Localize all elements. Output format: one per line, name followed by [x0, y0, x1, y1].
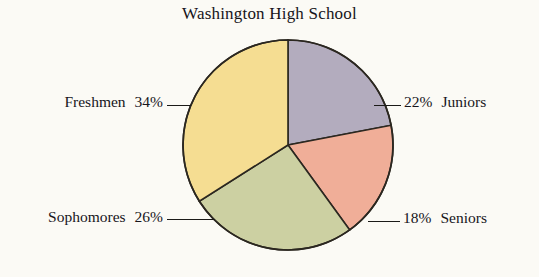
- leader-line-seniors: [368, 221, 400, 222]
- slice-label-seniors-percent: 18%: [403, 209, 431, 227]
- slice-label-sophomores: Sophomores 26%: [0, 208, 163, 226]
- slice-label-sophomores-name: Sophomores: [48, 208, 126, 226]
- leader-line-juniors: [374, 105, 401, 106]
- slice-label-sophomores-percent: 26%: [135, 208, 163, 226]
- pie-svg: [0, 0, 539, 277]
- pie-chart-figure: Washington High School Freshmen 34% Soph…: [0, 0, 539, 277]
- leader-line-freshmen: [167, 105, 191, 106]
- slice-label-seniors: 18% Seniors: [403, 209, 487, 227]
- slice-label-freshmen: Freshmen 34%: [18, 93, 163, 111]
- slice-label-freshmen-percent: 34%: [135, 93, 163, 111]
- leader-line-sophomores: [167, 219, 215, 220]
- slice-label-freshmen-name: Freshmen: [64, 93, 125, 111]
- pie-stage: [0, 0, 539, 277]
- slice-label-seniors-name: Seniors: [440, 209, 487, 227]
- slice-label-juniors-percent: 22%: [404, 93, 432, 111]
- slice-label-juniors: 22% Juniors: [404, 93, 486, 111]
- slice-label-juniors-name: Juniors: [441, 93, 486, 111]
